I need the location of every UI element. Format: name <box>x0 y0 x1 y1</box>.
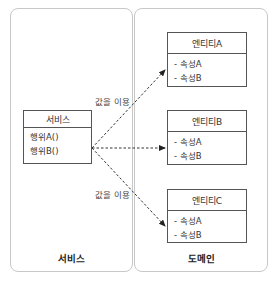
edge-label-entity-c: 값을 이용 <box>95 188 130 200</box>
edge-label-entity-a: 값을 이용 <box>95 95 130 107</box>
dependency-arrows <box>0 0 277 282</box>
arrow-to-entity-c <box>92 148 165 226</box>
arrow-to-entity-a <box>92 70 165 148</box>
